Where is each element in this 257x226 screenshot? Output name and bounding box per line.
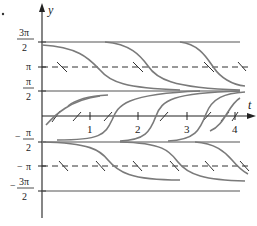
t-tick-3: 3 [184, 123, 190, 135]
figure-marker-dot [2, 13, 4, 15]
t-axis-arrow-icon [247, 113, 256, 119]
svg-text:−: − [17, 161, 23, 172]
svg-text:π: π [26, 127, 31, 138]
svg-text:π: π [26, 76, 31, 87]
svg-text:−: − [10, 180, 16, 191]
y-tick-neg-pi-over-2: − π 2 [15, 127, 34, 153]
svg-text:2: 2 [26, 91, 31, 102]
solution-curves [42, 42, 248, 181]
svg-text:−: − [15, 131, 21, 142]
svg-text:2: 2 [22, 42, 27, 53]
direction-field-plot: y t 1 2 3 4 3π 2 π π 2 − π 2 [0, 0, 257, 226]
t-axis-label: t [248, 98, 252, 112]
svg-text:π: π [26, 161, 31, 172]
svg-text:3π: 3π [19, 176, 29, 187]
y-axis-arrow-icon [39, 3, 45, 12]
svg-text:3π: 3π [19, 27, 29, 38]
svg-text:2: 2 [26, 142, 31, 153]
t-tick-4: 4 [232, 123, 238, 135]
y-tick-neg-3pi-over-2: − 3π 2 [10, 176, 34, 202]
t-tick-2: 2 [135, 123, 141, 135]
y-tick-pi-over-2: π 2 [23, 76, 34, 102]
svg-text:2: 2 [22, 191, 27, 202]
y-tick-neg-pi: − π [17, 161, 31, 172]
y-axis-label: y [47, 3, 54, 17]
svg-text:π: π [26, 61, 31, 72]
y-tick-pi: π [26, 61, 31, 72]
y-tick-3pi-over-2: 3π 2 [17, 27, 34, 53]
t-tick-1: 1 [87, 123, 93, 135]
